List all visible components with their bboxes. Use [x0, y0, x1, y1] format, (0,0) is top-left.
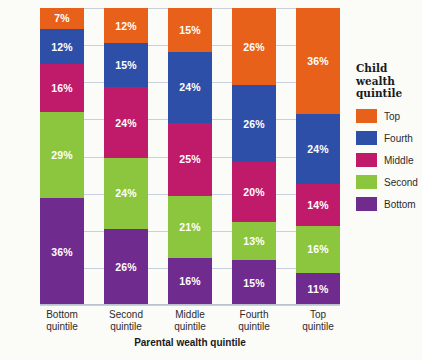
bar-segment[interactable]: 36%: [296, 8, 340, 114]
bar-segment-label: 26%: [243, 41, 265, 53]
bar-segment-label: 15%: [179, 24, 201, 36]
bar-segment[interactable]: 24%: [104, 87, 148, 158]
x-tick-label: Bottomquintile: [40, 309, 84, 333]
bar-segment[interactable]: 14%: [296, 184, 340, 225]
bar-segment[interactable]: 24%: [296, 114, 340, 185]
x-axis-line: [40, 304, 340, 305]
bar-segment-label: 24%: [179, 81, 201, 93]
bar-segment-label: 11%: [307, 283, 328, 295]
legend-item-label: Top: [384, 111, 400, 122]
bar-segment[interactable]: 26%: [104, 229, 148, 305]
x-tick-label-line: quintile: [232, 321, 276, 333]
bar-segment-label: 15%: [243, 277, 265, 289]
x-tick-label-line: Fourth: [232, 309, 276, 321]
bar-segment[interactable]: 24%: [104, 158, 148, 229]
legend-title-line: quintile: [356, 87, 422, 100]
bar-segment-label: 36%: [307, 55, 329, 67]
legend-color-swatch: [356, 175, 377, 189]
bar-segment[interactable]: 20%: [232, 162, 276, 221]
bar-segment[interactable]: 36%: [40, 198, 84, 305]
gridline: [40, 305, 340, 306]
x-tick-label-line: Bottom: [40, 309, 84, 321]
legend-item-label: Second: [384, 177, 418, 188]
legend-item[interactable]: Top: [356, 108, 422, 125]
bar-segment-label: 16%: [307, 243, 329, 255]
bar-segment-label: 29%: [51, 149, 73, 161]
bar-segment[interactable]: 15%: [104, 43, 148, 87]
bar-segment[interactable]: 16%: [40, 64, 84, 112]
bar-column[interactable]: 36%24%14%16%11%: [296, 8, 340, 305]
legend-item[interactable]: Middle: [356, 152, 422, 169]
bar-segment[interactable]: 26%: [232, 85, 276, 162]
bar-segment[interactable]: 15%: [168, 8, 212, 52]
x-tick-label-line: quintile: [104, 321, 148, 333]
bar-segment-label: 24%: [307, 143, 329, 155]
bar-segment[interactable]: 29%: [40, 112, 84, 198]
bar-segment[interactable]: 12%: [40, 29, 84, 65]
bar-column[interactable]: 12%15%24%24%26%: [104, 8, 148, 305]
bar-segment[interactable]: 21%: [168, 196, 212, 258]
bar-segment-label: 7%: [54, 12, 70, 24]
bar-segment[interactable]: 16%: [168, 258, 212, 305]
bar-segment-label: 20%: [243, 186, 265, 198]
bar-segment[interactable]: 15%: [232, 260, 276, 305]
bar-segment-label: 13%: [243, 235, 265, 247]
legend-item[interactable]: Bottom: [356, 196, 422, 213]
legend-title-line: Child: [356, 62, 422, 75]
x-tick-label-line: Top: [296, 309, 340, 321]
bar-column[interactable]: 26%26%20%13%15%: [232, 8, 276, 305]
legend-title: Childwealthquintile: [356, 62, 422, 100]
x-tick-label-line: quintile: [168, 321, 212, 333]
x-tick-label-line: quintile: [296, 321, 340, 333]
legend-color-swatch: [356, 153, 377, 167]
x-tick-label: Topquintile: [296, 309, 340, 333]
x-tick-label: Middlequintile: [168, 309, 212, 333]
x-axis-tick-labels: BottomquintileSecondquintileMiddlequinti…: [40, 309, 340, 333]
legend-color-swatch: [356, 109, 377, 123]
bar-segment-label: 16%: [51, 82, 73, 94]
bar-segment[interactable]: 16%: [296, 226, 340, 273]
bar-segment-label: 15%: [115, 59, 137, 71]
legend-item-label: Bottom: [384, 199, 416, 210]
bar-segment-label: 26%: [243, 118, 265, 130]
bar-segment-label: 26%: [115, 261, 137, 273]
legend-color-swatch: [356, 131, 377, 145]
bar-segment[interactable]: 25%: [168, 123, 212, 197]
bar-column[interactable]: 15%24%25%21%16%: [168, 8, 212, 305]
legend-items: TopFourthMiddleSecondBottom: [356, 108, 422, 213]
legend-title-line: wealth: [356, 75, 422, 88]
legend-item[interactable]: Second: [356, 174, 422, 191]
bar-segment[interactable]: 24%: [168, 52, 212, 123]
x-tick-label-line: Middle: [168, 309, 212, 321]
bar-segment[interactable]: 13%: [232, 222, 276, 261]
bar-segment-label: 24%: [115, 117, 137, 129]
bar-group: 7%12%16%29%36%12%15%24%24%26%15%24%25%21…: [40, 8, 340, 305]
legend-item-label: Middle: [384, 155, 413, 166]
bar-segment-label: 12%: [51, 41, 73, 53]
bar-column[interactable]: 7%12%16%29%36%: [40, 8, 84, 305]
bar-segment[interactable]: 26%: [232, 8, 276, 85]
bar-segment-label: 21%: [179, 221, 201, 233]
bar-segment-label: 16%: [179, 275, 201, 287]
legend-item[interactable]: Fourth: [356, 130, 422, 147]
x-tick-label-line: quintile: [40, 321, 84, 333]
legend-color-swatch: [356, 197, 377, 211]
x-tick-label: Secondquintile: [104, 309, 148, 333]
bar-segment-label: 25%: [179, 153, 201, 165]
x-tick-label-line: Second: [104, 309, 148, 321]
x-axis-title: Parental wealth quintile: [40, 337, 340, 348]
plot-area: 7%12%16%29%36%12%15%24%24%26%15%24%25%21…: [40, 8, 340, 305]
legend: Childwealthquintile TopFourthMiddleSecon…: [356, 62, 422, 218]
bar-segment-label: 24%: [115, 187, 137, 199]
bar-segment-label: 12%: [115, 20, 137, 32]
legend-item-label: Fourth: [384, 133, 413, 144]
bar-segment[interactable]: 11%: [296, 273, 340, 305]
bar-segment[interactable]: 7%: [40, 8, 84, 29]
bar-segment[interactable]: 12%: [104, 8, 148, 43]
bar-segment-label: 36%: [51, 246, 73, 258]
x-tick-label: Fourthquintile: [232, 309, 276, 333]
bar-segment-label: 14%: [307, 199, 329, 211]
